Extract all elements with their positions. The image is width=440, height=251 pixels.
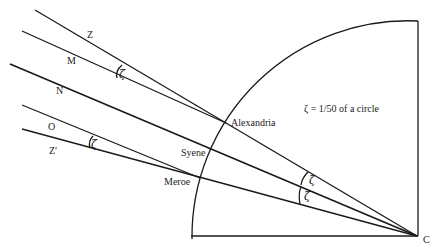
n-line [10,64,417,236]
place-label-syene: Syene [181,147,206,158]
place-label-meroe: Meroe [164,176,191,187]
z-prime-line [22,129,417,236]
angle-label-center-lower: ζ [304,190,311,203]
ray-label-m: M [67,55,76,66]
angle-label-center-upper: ζ [309,174,316,187]
eratosthenes-diagram: ζ ζ ζ ζ Z M N O Z′ Alexandria Syene Mero… [0,0,440,251]
angle-label-meroe: ζ [91,138,98,151]
angle-definition-note: ζ = 1/50 of a circle [304,103,380,115]
ray-label-z: Z [87,29,93,40]
ray-label-n: N [56,85,63,96]
place-label-alexandria: Alexandria [231,117,276,128]
angle-label-alexandria: ζ [119,68,126,81]
angle-arc-center-upper [301,172,308,185]
angle-arc-center-lower [299,187,301,205]
ray-label-o: O [48,121,55,132]
center-label: C [423,234,430,245]
ray-label-z-prime: Z′ [49,145,57,156]
o-ray [22,105,200,178]
